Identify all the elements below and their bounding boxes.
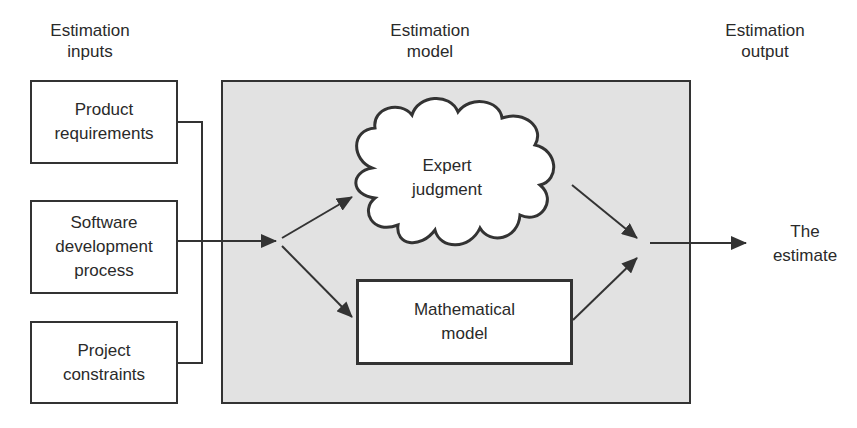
expert-judgment-label: Expert judgment	[392, 154, 502, 202]
input-project-constraints: Project constraints	[30, 321, 178, 404]
output-the-estimate: The estimate	[760, 220, 850, 268]
input-software-development-process: Software development process	[30, 200, 178, 294]
mathematical-model-box: Mathematical model	[356, 279, 573, 365]
input-product-requirements: Product requirements	[30, 80, 178, 164]
